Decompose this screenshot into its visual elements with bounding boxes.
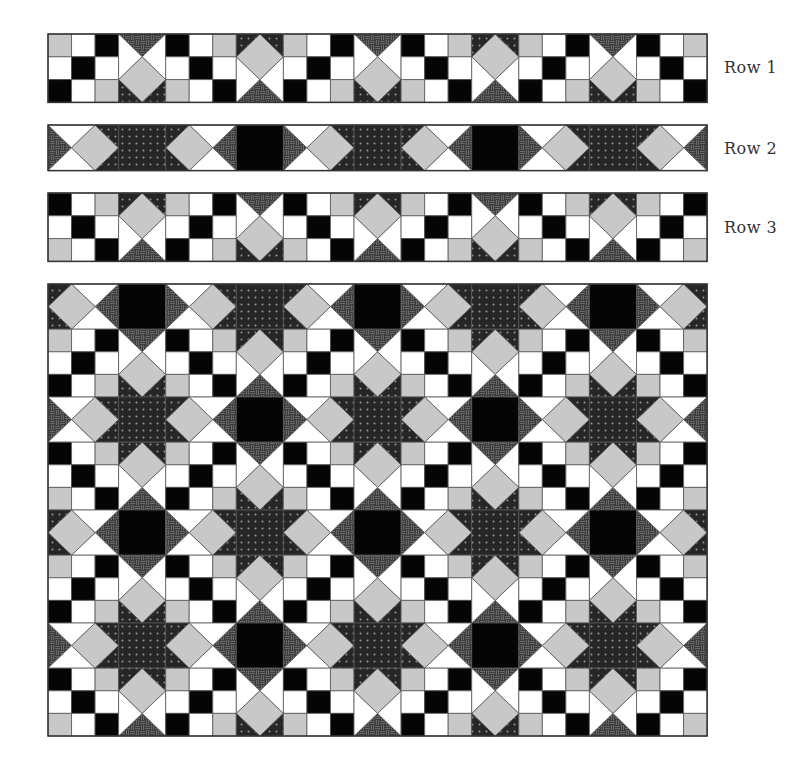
nine-patch-square bbox=[48, 600, 72, 623]
nine-patch-square bbox=[166, 193, 190, 216]
nine-patch-square bbox=[660, 465, 684, 488]
nine-patch-square bbox=[189, 34, 213, 57]
nine-patch-square bbox=[684, 600, 708, 623]
block-npa bbox=[519, 193, 590, 261]
block-npb bbox=[283, 34, 354, 102]
block-db bbox=[119, 193, 166, 261]
nine-patch-square bbox=[48, 216, 72, 239]
nine-patch-square bbox=[95, 239, 119, 262]
nine-patch-square bbox=[166, 487, 190, 510]
nine-patch-square bbox=[330, 34, 354, 57]
nine-patch-square bbox=[330, 57, 354, 80]
row-3-strip bbox=[48, 193, 707, 261]
nine-patch-square bbox=[425, 465, 449, 488]
nine-patch-square bbox=[166, 713, 190, 736]
nine-patch-square bbox=[566, 713, 590, 736]
nine-patch-square bbox=[307, 442, 331, 465]
nine-patch-square bbox=[283, 465, 307, 488]
nine-patch-square bbox=[283, 216, 307, 239]
block-db bbox=[119, 442, 166, 510]
nine-patch-square bbox=[330, 239, 354, 262]
block-hl bbox=[166, 510, 237, 555]
block-npa bbox=[401, 555, 472, 623]
nine-patch-square bbox=[542, 57, 566, 80]
nine-patch-square bbox=[307, 193, 331, 216]
dotted-square bbox=[119, 397, 166, 442]
dotted-square bbox=[119, 623, 166, 668]
nine-patch-square bbox=[660, 442, 684, 465]
nine-patch-square bbox=[189, 374, 213, 397]
nine-patch-square bbox=[95, 578, 119, 601]
nine-patch-square bbox=[519, 668, 543, 691]
block-dt bbox=[472, 442, 519, 510]
block-db bbox=[236, 329, 283, 397]
nine-patch-square bbox=[95, 193, 119, 216]
nine-patch-square bbox=[637, 239, 661, 262]
nine-patch-square bbox=[684, 193, 708, 216]
block-dt bbox=[236, 193, 283, 261]
dotted-square bbox=[472, 510, 519, 555]
nine-patch-square bbox=[283, 555, 307, 578]
nine-patch-square bbox=[401, 487, 425, 510]
nine-patch-square bbox=[48, 691, 72, 714]
dotted-square bbox=[589, 623, 636, 668]
block-db bbox=[472, 34, 519, 102]
nine-patch-square bbox=[542, 374, 566, 397]
nine-patch-square bbox=[72, 193, 96, 216]
nine-patch-square bbox=[330, 193, 354, 216]
assembled-quilt bbox=[48, 284, 707, 736]
nine-patch-square bbox=[566, 578, 590, 601]
nine-patch-square bbox=[401, 578, 425, 601]
nine-patch-square bbox=[72, 239, 96, 262]
nine-patch-square bbox=[637, 80, 661, 103]
nine-patch-square bbox=[95, 34, 119, 57]
nine-patch-square bbox=[166, 57, 190, 80]
block-npb bbox=[519, 34, 590, 102]
nine-patch-square bbox=[213, 691, 237, 714]
nine-patch-square bbox=[448, 555, 472, 578]
nine-patch-square bbox=[189, 465, 213, 488]
nine-patch-square bbox=[166, 329, 190, 352]
block-hr bbox=[519, 510, 590, 555]
nine-patch-square bbox=[166, 578, 190, 601]
black-square bbox=[236, 125, 283, 171]
block-npb bbox=[283, 329, 354, 397]
nine-patch-square bbox=[72, 487, 96, 510]
block-hr bbox=[48, 510, 119, 555]
nine-patch-square bbox=[213, 465, 237, 488]
nine-patch-square bbox=[637, 600, 661, 623]
nine-patch-square bbox=[189, 80, 213, 103]
nine-patch-square bbox=[307, 668, 331, 691]
nine-patch-square bbox=[48, 578, 72, 601]
nine-patch-square bbox=[542, 442, 566, 465]
block-npb bbox=[401, 442, 472, 510]
nine-patch-square bbox=[637, 34, 661, 57]
nine-patch-square bbox=[213, 80, 237, 103]
nine-patch-square bbox=[213, 487, 237, 510]
nine-patch-square bbox=[189, 329, 213, 352]
row-1-label: Row 1 bbox=[724, 58, 777, 77]
nine-patch-square bbox=[684, 668, 708, 691]
nine-patch-square bbox=[95, 555, 119, 578]
nine-patch-square bbox=[48, 193, 72, 216]
nine-patch-square bbox=[95, 352, 119, 375]
block-dt bbox=[354, 329, 401, 397]
block-npb bbox=[637, 442, 708, 510]
nine-patch-square bbox=[425, 691, 449, 714]
nine-patch-square bbox=[448, 57, 472, 80]
block-npa bbox=[401, 329, 472, 397]
block-npa bbox=[637, 34, 708, 102]
nine-patch-square bbox=[95, 442, 119, 465]
block-dt bbox=[236, 668, 283, 736]
black-square bbox=[119, 284, 166, 329]
nine-patch-square bbox=[283, 487, 307, 510]
nine-patch-square bbox=[95, 374, 119, 397]
nine-patch-square bbox=[307, 713, 331, 736]
nine-patch-square bbox=[72, 578, 96, 601]
block-npa bbox=[48, 668, 119, 736]
nine-patch-square bbox=[684, 216, 708, 239]
block-db bbox=[589, 442, 636, 510]
nine-patch-square bbox=[425, 80, 449, 103]
nine-patch-square bbox=[566, 216, 590, 239]
nine-patch-square bbox=[401, 668, 425, 691]
